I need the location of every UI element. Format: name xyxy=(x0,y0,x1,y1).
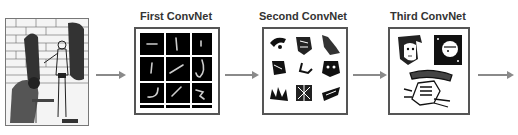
first-convnet-panel xyxy=(134,27,220,115)
stage-label-first: First ConvNet xyxy=(133,10,219,22)
face-feature-1 xyxy=(398,35,422,65)
texture-features-icon xyxy=(264,29,346,113)
object-part-features-icon xyxy=(390,29,468,113)
face-feature-2 xyxy=(434,35,462,65)
stage-label-second: Second ConvNet xyxy=(258,10,348,22)
arrow-third-to-output xyxy=(478,71,514,79)
hand-feature xyxy=(404,70,452,107)
stage-label-third: Third ConvNet xyxy=(386,10,470,22)
arrow-second-to-third xyxy=(353,71,387,79)
arrow-head-icon xyxy=(507,71,514,79)
second-convnet-panel xyxy=(262,27,348,115)
arrow-head-icon xyxy=(252,71,259,79)
input-drawing-icon xyxy=(6,19,89,126)
arrow-input-to-first xyxy=(96,71,126,79)
third-convnet-panel xyxy=(388,27,470,115)
arrow-first-to-second xyxy=(225,71,259,79)
edge-features-icon xyxy=(140,33,218,113)
arrow-head-icon xyxy=(119,71,126,79)
arrow-head-icon xyxy=(380,71,387,79)
input-image xyxy=(5,18,89,126)
first-convnet-feature-grid xyxy=(140,33,214,109)
